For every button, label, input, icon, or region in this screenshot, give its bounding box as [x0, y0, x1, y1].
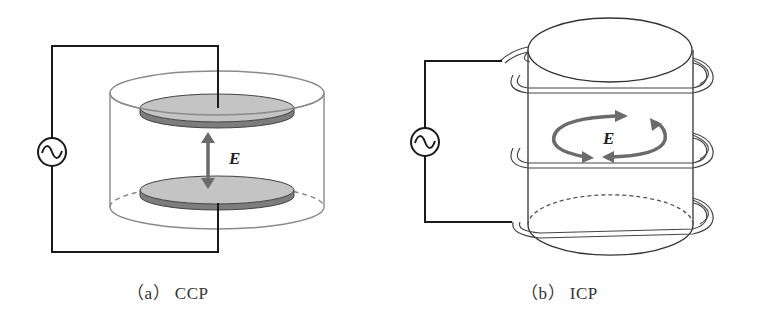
ccp-ac-source-icon — [38, 138, 66, 166]
icp-field-label: E — [602, 129, 614, 148]
caption-a: （a） CCP — [127, 279, 208, 304]
ccp-panel: E — [38, 46, 324, 252]
diagram-canvas: E — [0, 0, 758, 324]
icp-ac-source-icon — [411, 128, 439, 156]
caption-b: （b） ICP — [521, 279, 598, 304]
icp-panel: E — [411, 18, 713, 255]
ccp-field-label: E — [228, 149, 240, 168]
ccp-field-arrow-icon — [201, 132, 215, 189]
